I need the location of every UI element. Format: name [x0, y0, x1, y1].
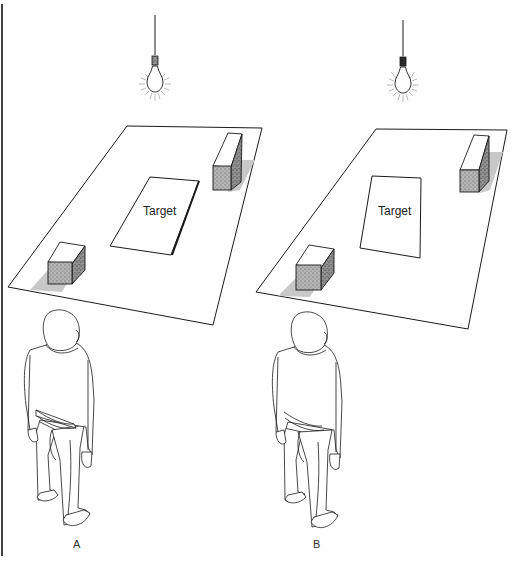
- panel-label-b: B: [313, 538, 320, 550]
- panel-b: B Target: [256, 20, 507, 550]
- target-label: Target: [143, 204, 177, 218]
- target-label: Target: [378, 204, 412, 218]
- light-bulb-icon: [387, 20, 419, 102]
- figure: A Target: [0, 0, 522, 561]
- light-bulb-icon: [139, 15, 171, 101]
- diagram-canvas: A Target: [0, 0, 522, 561]
- panel-a: A Target: [8, 15, 262, 550]
- panel-label-a: A: [73, 538, 81, 550]
- observer-figure: [24, 310, 94, 526]
- observer-figure: [272, 312, 342, 528]
